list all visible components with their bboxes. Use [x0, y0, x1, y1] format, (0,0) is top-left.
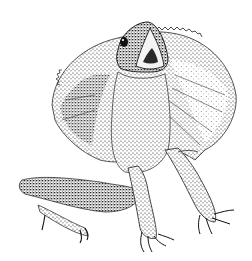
- eye: [120, 37, 128, 47]
- body: [111, 72, 170, 173]
- front-leg-right: [165, 148, 234, 234]
- tail-and-hind-leg: [19, 177, 140, 243]
- illustration-canvas: Stipple drawing of a frilled lizard with…: [0, 0, 252, 261]
- front-leg-left: [128, 166, 174, 252]
- head: [117, 22, 168, 72]
- frilled-lizard-illustration: [0, 0, 252, 261]
